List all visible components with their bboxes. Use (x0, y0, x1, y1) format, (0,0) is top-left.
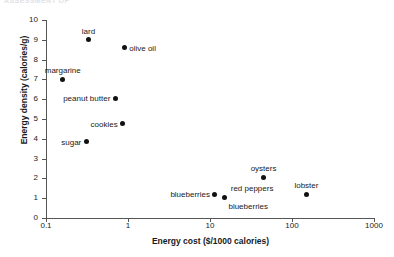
data-point-label: cookies (91, 119, 118, 128)
y-tick-label: 0 (16, 213, 38, 222)
data-point-label: oysters (251, 164, 277, 173)
data-point (60, 77, 65, 82)
x-axis-title: Energy cost ($/1000 calories) (46, 236, 375, 246)
data-point (222, 195, 227, 200)
y-tick (42, 99, 46, 100)
scatter-chart: ASSESSMENT OF 012345678910 0.11101001000… (0, 0, 394, 257)
data-point (304, 192, 309, 197)
x-tick-label: 10 (206, 221, 215, 230)
data-point-label: margarine (45, 66, 81, 75)
clipped-header-text: ASSESSMENT OF (4, 0, 69, 4)
data-point-label: blueberries (170, 190, 210, 199)
data-point-label: peanut butter (63, 94, 110, 103)
y-tick-label: 2 (16, 173, 38, 182)
data-point (212, 192, 217, 197)
y-tick (42, 60, 46, 61)
x-tick-label: 1 (126, 221, 130, 230)
x-tick-label: 0.1 (40, 221, 51, 230)
data-point-label: olive oil (129, 43, 156, 52)
data-point-label: blueberries (228, 202, 268, 211)
data-point-label: lobster (294, 181, 318, 190)
y-axis-line (46, 20, 47, 219)
data-point (84, 139, 89, 144)
y-tick (42, 178, 46, 179)
data-point (261, 175, 266, 180)
data-point (120, 121, 125, 126)
x-tick-label: 1000 (365, 221, 383, 230)
y-axis-title: Energy density (calories/g) (19, 10, 29, 170)
y-tick-label: 1 (16, 193, 38, 202)
data-point (86, 37, 91, 42)
y-tick (42, 139, 46, 140)
y-tick (42, 40, 46, 41)
data-point (122, 45, 127, 50)
data-point (113, 96, 118, 101)
y-tick (42, 20, 46, 21)
data-point-label: sugar (61, 137, 81, 146)
y-tick (42, 119, 46, 120)
y-tick (42, 198, 46, 199)
x-tick-label: 100 (285, 221, 298, 230)
y-tick (42, 159, 46, 160)
y-tick (42, 79, 46, 80)
data-point-label: lard (82, 27, 95, 36)
data-point-label: red peppers (231, 184, 274, 193)
